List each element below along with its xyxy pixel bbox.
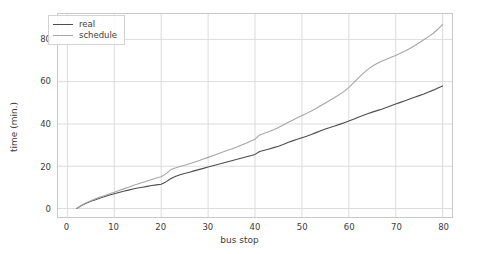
legend-swatch-real <box>53 24 73 25</box>
legend-label-schedule: schedule <box>79 30 117 41</box>
legend-label-real: real <box>79 19 95 30</box>
y-tick-label: 0 <box>25 204 51 214</box>
x-tick-label: 80 <box>438 222 449 232</box>
legend-box: real schedule <box>48 15 125 45</box>
x-tick-label: 20 <box>155 222 166 232</box>
x-tick-label: 0 <box>64 222 69 232</box>
x-tick-label: 60 <box>344 222 355 232</box>
x-tick-label: 40 <box>250 222 261 232</box>
y-tick-label: 60 <box>25 76 51 86</box>
x-tick-label: 70 <box>391 222 402 232</box>
x-tick-label: 30 <box>202 222 213 232</box>
x-axis-title: bus stop <box>0 235 479 245</box>
legend-swatch-schedule <box>53 35 73 36</box>
legend-item-schedule: schedule <box>53 30 117 41</box>
y-axis-title: time (min.) <box>9 77 19 177</box>
x-tick-label: 50 <box>297 222 308 232</box>
chart-figure: 01020304050607080 020406080 bus stop tim… <box>0 0 479 254</box>
y-tick-label: 20 <box>25 162 51 172</box>
x-tick-label: 10 <box>108 222 119 232</box>
y-tick-label: 40 <box>25 119 51 129</box>
series-line-schedule <box>77 25 443 209</box>
series-line-real <box>77 86 443 209</box>
legend-item-real: real <box>53 19 117 30</box>
